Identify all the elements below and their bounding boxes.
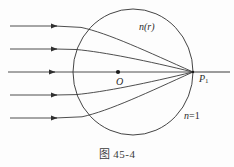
refracted-ray-4 xyxy=(76,72,193,95)
outside-index-value: =1 xyxy=(189,110,200,121)
figure-caption: 图 45-4 xyxy=(0,145,234,161)
index-profile-label: n(r) xyxy=(139,22,155,32)
focus-point-subscript: 1 xyxy=(205,77,209,85)
incoming-ray-1-tail xyxy=(55,26,81,27)
refracted-ray-5 xyxy=(82,72,193,117)
incoming-ray-group xyxy=(8,26,82,118)
incoming-ray-2-tail xyxy=(55,49,76,50)
center-label: O xyxy=(116,77,123,87)
figure-container: n(r) O P1 n=1 图 45-4 xyxy=(0,0,234,167)
center-point-dot xyxy=(116,70,120,74)
refracted-ray-group xyxy=(73,27,193,116)
outside-index-label: n=1 xyxy=(184,111,200,121)
incoming-ray-5-tail xyxy=(55,117,82,118)
refracted-ray-2 xyxy=(76,50,193,73)
focus-point-label: P1 xyxy=(199,74,209,85)
refracted-ray-1 xyxy=(81,27,193,72)
focus-point-dot xyxy=(192,71,194,73)
